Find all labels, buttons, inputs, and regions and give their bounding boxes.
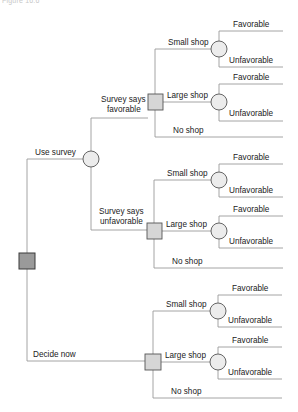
outcome-favorable-large-2: Favorable — [233, 205, 270, 214]
use-survey-label: Use survey — [35, 148, 77, 157]
survey-chance-node[interactable] — [83, 151, 99, 167]
chance-node-large-shop-3[interactable] — [210, 354, 226, 370]
outcome-unfavorable-large-2: Unfavorable — [229, 237, 274, 246]
survey-favorable-label-line2: favorable — [107, 105, 141, 114]
root-connectors — [27, 159, 145, 361]
no-shop-label-1: No shop — [173, 126, 204, 135]
small-shop-label-3: Small shop — [166, 300, 207, 309]
decision-node-decide-now[interactable] — [145, 354, 161, 370]
chance-node-large-shop-2[interactable] — [211, 223, 227, 239]
decision-node-favorable-survey[interactable] — [148, 94, 163, 110]
chance-node-large-shop-1[interactable] — [211, 94, 227, 110]
survey-unfavorable-label-line1: Survey says — [99, 207, 144, 216]
outcome-favorable-small-1: Favorable — [233, 20, 270, 29]
chance-node-small-shop-1[interactable] — [211, 41, 227, 57]
large-shop-label-3: Large shop — [165, 351, 206, 360]
no-shop-label-2: No shop — [172, 257, 203, 266]
survey-favorable-label-line1: Survey says — [101, 95, 146, 104]
small-shop-label-2: Small shop — [167, 169, 208, 178]
outcome-unfavorable-small-3: Unfavorable — [228, 316, 273, 325]
large-shop-label-1: Large shop — [167, 91, 208, 100]
large-shop-label-2: Large shop — [166, 220, 207, 229]
outcome-unfavorable-small-2: Unfavorable — [229, 186, 274, 195]
outcome-unfavorable-large-3: Unfavorable — [228, 368, 273, 377]
chance-node-small-shop-2[interactable] — [211, 172, 227, 188]
chance-node-small-shop-3[interactable] — [210, 303, 226, 319]
outcome-favorable-large-1: Favorable — [233, 73, 270, 82]
root-decision-node[interactable] — [19, 253, 35, 269]
survey-unfavorable-label-line2: unfavorable — [100, 217, 143, 226]
decision-node-unfavorable-survey[interactable] — [147, 223, 162, 239]
decision-tree-diagram: Use survey Decide now Survey says favora… — [0, 0, 298, 412]
outcome-favorable-large-3: Favorable — [232, 336, 269, 345]
outcome-unfavorable-small-1: Unfavorable — [229, 56, 274, 65]
decide-now-label: Decide now — [33, 350, 76, 359]
outcome-favorable-small-2: Favorable — [233, 153, 270, 162]
outcome-favorable-small-3: Favorable — [232, 284, 269, 293]
no-shop-label-3: No shop — [171, 387, 202, 396]
outcome-unfavorable-large-1: Unfavorable — [229, 109, 274, 118]
small-shop-label-1: Small shop — [168, 38, 209, 47]
